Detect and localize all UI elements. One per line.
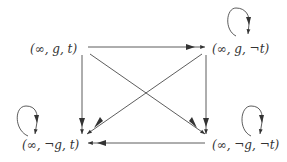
node-inf-g-t: (∞, g, t) [30,42,77,56]
edge-n1-n3 [79,55,85,134]
node-inf-g-not-t: (∞, g, ¬t) [212,42,269,56]
self-loop-n2 [228,8,251,36]
edge-n2-n4 [203,55,209,134]
self-loop-n3 [17,106,39,136]
edge-n1-n4 [90,54,205,134]
node-inf-not-g-t: (∞, ¬g, t) [22,138,79,152]
edge-n1-n2 [88,44,205,50]
edge-n4-n3 [88,140,205,146]
edge-n2-n3 [87,54,202,134]
self-loop-n4 [242,106,264,136]
node-inf-not-g-not-t: (∞, ¬g, ¬t) [212,138,279,152]
